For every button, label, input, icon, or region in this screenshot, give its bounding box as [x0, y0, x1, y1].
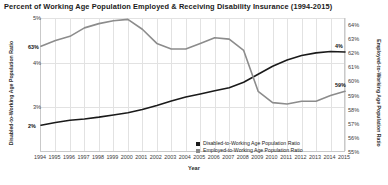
x-axis-tick-label: 2006	[208, 154, 220, 160]
x-axis-tick-label: 2003	[164, 154, 176, 160]
series-end-label: 4%	[335, 43, 343, 49]
chart-container: Percent of Working Age Population Employ…	[0, 0, 388, 185]
x-axis-tick-label: 2014	[324, 154, 336, 160]
x-axis-tick-label: 2012	[295, 154, 307, 160]
x-axis-tick-label: 1996	[63, 154, 75, 160]
y-axis-right-tick-label: 63%	[348, 36, 359, 42]
legend-swatch-icon	[196, 149, 200, 153]
y-axis-right-tick-label: 64%	[348, 22, 359, 28]
x-axis-tick-label: 1995	[48, 154, 60, 160]
x-axis-tick-label: 2008	[237, 154, 249, 160]
x-axis-tick-label: 1997	[77, 154, 89, 160]
x-axis-tick-label: 2000	[121, 154, 133, 160]
x-axis-tick-label: 2015	[338, 154, 350, 160]
y-axis-right-tick-label: 62%	[348, 50, 359, 56]
chart-title: Percent of Working Age Population Employ…	[4, 2, 332, 11]
y-axis-right-tick-label: 57%	[348, 121, 359, 127]
plot-area	[40, 18, 345, 152]
legend-item[interactable]: Disabled-to-Working Age Population Ratio	[196, 140, 303, 147]
y-axis-right-tick-label: 61%	[348, 64, 359, 70]
x-axis-tick-label: 2011	[280, 154, 292, 160]
legend-label: Disabled-to-Working Age Population Ratio	[203, 140, 300, 147]
y-axis-right-tick-label: 56%	[348, 135, 359, 141]
y-axis-right-tick-label: 58%	[348, 107, 359, 113]
y-axis-left-tick-label: 4%	[33, 60, 41, 66]
series-lines	[41, 18, 346, 152]
y-axis-right-tick-label: 60%	[348, 78, 359, 84]
x-axis-tick-label: 1994	[34, 154, 46, 160]
series-start-label: 2%	[28, 123, 36, 129]
series-line	[41, 52, 345, 126]
x-axis-title: Year	[0, 165, 388, 171]
chart-legend: Disabled-to-Working Age Population Ratio…	[196, 140, 303, 155]
series-end-label: 59%	[335, 82, 346, 88]
x-axis-tick-label: 2010	[266, 154, 278, 160]
legend-item[interactable]: Employed-to-Working Age Population Ratio	[196, 147, 303, 154]
x-axis-tick-label: 2002	[150, 154, 162, 160]
y-axis-left-title: Disabled-to-Working Age Population Ratio	[8, 26, 14, 160]
y-axis-left-tick-label: 3%	[33, 104, 41, 110]
x-axis-tick-label: 1999	[106, 154, 118, 160]
x-axis-tick-label: 2001	[135, 154, 147, 160]
legend-swatch-icon	[196, 142, 200, 146]
legend-label: Employed-to-Working Age Population Ratio	[203, 147, 303, 154]
y-axis-right-title: Employed-to-Working Age Population Ratio	[376, 26, 382, 160]
x-axis-tick-label: 2005	[193, 154, 205, 160]
x-axis-tick-label: 2007	[222, 154, 234, 160]
series-start-label: 63%	[28, 44, 39, 50]
x-axis-tick-label: 2004	[179, 154, 191, 160]
y-axis-right-tick-label: 59%	[348, 93, 359, 99]
series-line	[41, 19, 345, 104]
x-axis-tick-label: 2009	[251, 154, 263, 160]
x-axis-tick-label: 1998	[92, 154, 104, 160]
x-axis-tick-label: 2013	[309, 154, 321, 160]
y-axis-left-tick-label: 5%	[33, 15, 41, 21]
